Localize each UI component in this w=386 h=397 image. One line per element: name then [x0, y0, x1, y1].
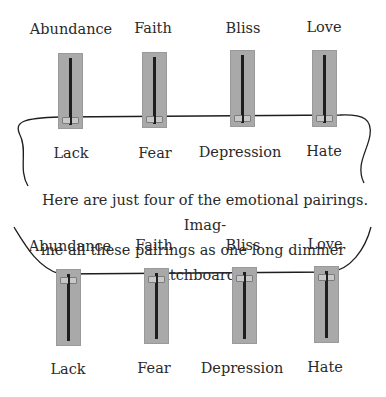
slider-love-hate-bottom[interactable] [314, 266, 339, 343]
slider-knob[interactable] [62, 117, 79, 124]
bottom-label-lack: Lack [50, 362, 85, 377]
slider-bliss-depression-top[interactable] [230, 50, 255, 127]
slider-knob[interactable] [146, 116, 163, 123]
top-label-bliss: Bliss [226, 21, 261, 36]
slider-knob[interactable] [318, 274, 335, 281]
top-label-fear: Fear [138, 146, 171, 161]
bottom-label-love: Love [307, 237, 342, 252]
slider-abundance-lack-bottom[interactable] [56, 269, 81, 346]
slider-faith-fear-top[interactable] [142, 52, 167, 128]
top-label-abundance: Abundance [30, 22, 112, 37]
bottom-label-abundance: Abundance [29, 239, 111, 254]
slider-faith-fear-bottom[interactable] [144, 268, 169, 344]
top-label-love: Love [306, 20, 341, 35]
slider-love-hate-top[interactable] [312, 50, 337, 127]
top-label-faith: Faith [134, 21, 172, 36]
slider-knob[interactable] [236, 275, 253, 282]
caption-line-1: Here are just four of the emotional pair… [0, 188, 386, 238]
slider-knob[interactable] [316, 115, 333, 122]
slider-knob[interactable] [60, 277, 77, 284]
bottom-label-fear: Fear [137, 361, 170, 376]
slider-bliss-depression-bottom[interactable] [232, 267, 257, 344]
slider-knob[interactable] [234, 115, 251, 122]
top-label-depression: Depression [199, 145, 282, 160]
bottom-label-depression: Depression [201, 361, 284, 376]
top-label-lack: Lack [53, 146, 88, 161]
bottom-label-hate: Hate [307, 360, 343, 375]
bottom-label-faith: Faith [135, 238, 173, 253]
bottom-label-bliss: Bliss [226, 238, 261, 253]
top-label-hate: Hate [306, 144, 342, 159]
slider-abundance-lack-top[interactable] [58, 53, 83, 129]
slider-knob[interactable] [148, 276, 165, 283]
